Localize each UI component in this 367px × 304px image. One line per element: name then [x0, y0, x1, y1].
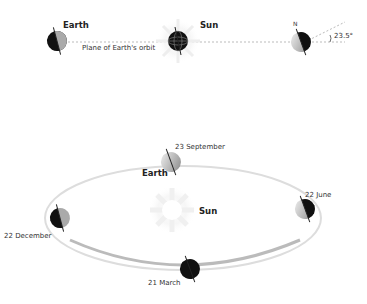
- top-sun: [156, 19, 200, 63]
- tilt-label: 23.5°: [334, 32, 353, 40]
- orbit-earth-label: Earth: [142, 168, 168, 178]
- label-march: 21 March: [148, 279, 180, 287]
- top-earth-label: Earth: [63, 20, 89, 30]
- top-right-earth-globe: [287, 25, 315, 58]
- plane-label: Plane of Earth's orbit: [82, 44, 155, 52]
- orbit-sun: [148, 186, 196, 234]
- label-december: 22 December: [4, 232, 51, 240]
- orbit-sun-label: Sun: [199, 206, 217, 216]
- label-june: 22 June: [305, 191, 331, 199]
- tilt-arc: [330, 35, 331, 42]
- north-label: N: [293, 20, 298, 27]
- globe-december: [47, 202, 74, 234]
- diagram-canvas: [0, 0, 367, 304]
- label-september: 23 September: [175, 143, 225, 151]
- top-sun-label: Sun: [200, 20, 218, 30]
